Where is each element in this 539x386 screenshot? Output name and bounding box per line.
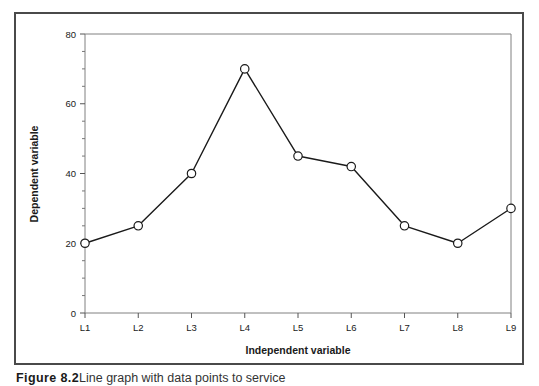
data-point-marker — [134, 222, 142, 230]
y-tick-label: 80 — [65, 29, 76, 40]
figure-caption-label: Figure 8.2 — [16, 371, 79, 385]
y-axis-title: Dependent variable — [28, 125, 40, 222]
x-tick-label: L9 — [506, 322, 517, 333]
y-tick-label: 40 — [65, 168, 76, 179]
data-point-marker — [294, 152, 302, 160]
x-tick-label: L8 — [452, 322, 463, 333]
x-axis-title: Independent variable — [245, 344, 350, 356]
x-tick-label: L2 — [133, 322, 144, 333]
plot-area-border — [85, 34, 511, 313]
data-point-marker — [241, 65, 249, 73]
x-axis-ticks: L1L2L3L4L5L6L7L8L9 — [80, 313, 517, 333]
y-tick-label: 20 — [65, 238, 76, 249]
x-tick-label: L1 — [80, 322, 91, 333]
figure-frame: 020406080 L1L2L3L4L5L6L7L8L9 Independent… — [14, 12, 524, 365]
data-point-marker — [187, 169, 195, 177]
data-point-marker — [507, 204, 515, 212]
figure-caption-text: Line graph with data points to service — [79, 371, 285, 385]
data-point-marker — [454, 239, 462, 247]
y-axis-ticks: 020406080 — [65, 29, 85, 319]
data-point-marker — [81, 239, 89, 247]
x-tick-label: L6 — [346, 322, 357, 333]
y-tick-label: 60 — [65, 98, 76, 109]
data-point-marker — [400, 222, 408, 230]
x-tick-label: L7 — [399, 322, 410, 333]
x-tick-label: L5 — [293, 322, 304, 333]
x-tick-label: L4 — [239, 322, 250, 333]
line-chart: 020406080 L1L2L3L4L5L6L7L8L9 Independent… — [16, 14, 522, 363]
x-tick-label: L3 — [186, 322, 197, 333]
data-point-marker — [347, 162, 355, 170]
data-point-markers — [81, 65, 515, 248]
figure-caption: Figure 8.2Line graph with data points to… — [16, 371, 526, 386]
y-tick-label: 0 — [71, 308, 76, 319]
